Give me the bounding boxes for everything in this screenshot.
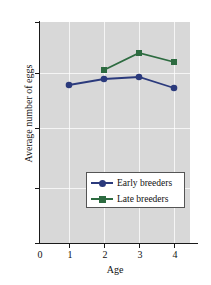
series-marker-early-breeders [136, 74, 143, 81]
legend-marker-circle-icon [91, 178, 113, 188]
series-marker-early-breeders [101, 76, 108, 83]
series-marker-early-breeders [171, 85, 178, 92]
legend-marker-square-icon [91, 194, 113, 204]
series-marker-late-breeders [171, 59, 177, 65]
series-marker-early-breeders [66, 82, 73, 89]
legend-label-late-breeders: Late breeders [117, 194, 168, 204]
series-line-early-breeders [69, 77, 174, 88]
chart-figure: 8 6 4 2 0 0 1 2 3 4 Average number of eg… [0, 0, 211, 285]
series-marker-late-breeders [101, 67, 107, 73]
data-series-layer [0, 0, 211, 285]
series-marker-late-breeders [136, 50, 142, 56]
chart-legend: Early breeders Late breeders [86, 172, 185, 208]
legend-item-late-breeders: Late breeders [91, 191, 180, 207]
legend-label-early-breeders: Early breeders [117, 178, 172, 188]
legend-item-early-breeders: Early breeders [91, 175, 180, 191]
